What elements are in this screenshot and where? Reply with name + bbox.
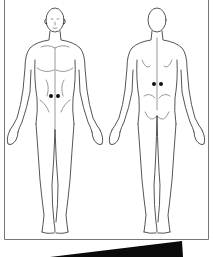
back-marker-left: [152, 82, 156, 86]
back-body-figure: [109, 8, 204, 233]
chart-frame: [5, 0, 209, 240]
front-marker-right: [56, 94, 60, 98]
back-marker-right: [159, 82, 163, 86]
front-marker-left: [49, 94, 53, 98]
front-body-figure: [7, 8, 102, 233]
banner-wedge: [50, 241, 183, 257]
body-chart: [0, 0, 213, 257]
back-head: [148, 8, 166, 32]
